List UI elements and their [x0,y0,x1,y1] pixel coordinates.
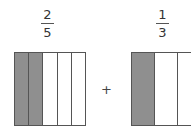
fraction-right-bar [156,23,169,24]
fraction-strip-left [14,52,86,126]
left-strip-part-unshaded [58,53,72,125]
plus-operator: + [101,82,112,97]
right-strip-part-unshaded [178,53,191,125]
fraction-right: 1 3 [156,8,169,40]
fraction-left: 2 5 [41,8,54,40]
fraction-right-denominator: 3 [158,26,166,40]
fraction-right-numerator: 1 [158,8,166,22]
fraction-left-numerator: 2 [43,8,51,22]
right-strip-part-shaded [132,53,155,125]
right-strip-part-unshaded [155,53,178,125]
fraction-left-denominator: 5 [43,26,51,40]
fraction-strip-right [131,52,191,126]
left-strip-part-unshaded [72,53,85,125]
left-strip-part-unshaded [43,53,57,125]
fraction-left-bar [41,23,54,24]
left-strip-part-shaded [29,53,43,125]
left-strip-part-shaded [15,53,29,125]
